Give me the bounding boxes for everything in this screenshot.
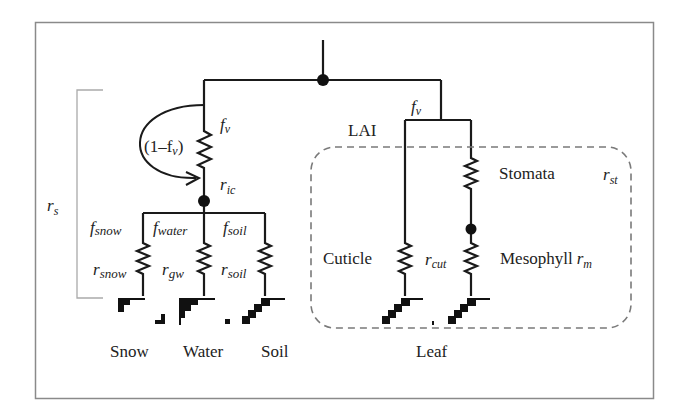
snow-surface-icon (118, 298, 145, 319)
surface-icons (118, 298, 490, 325)
leaf-surface-label: Leaf (416, 342, 447, 361)
cuticle-resistance-label: rcut (425, 250, 447, 271)
snow-fraction-label: fsnow (90, 218, 122, 238)
snow-surface-label: Snow (110, 342, 149, 361)
water-fraction-label: fwater (153, 218, 188, 238)
soil-resistance-label: rsoil (221, 260, 247, 281)
water-dot-icon (225, 319, 230, 324)
lai-label: LAI (348, 121, 377, 140)
stomata-label: Stomata (499, 164, 555, 183)
surface-resistance-label: rs (47, 196, 59, 218)
leaf-cuticle-surface-icon (382, 298, 423, 324)
water-surface-icon (179, 298, 215, 325)
snow-resistance-label: rsnow (93, 260, 127, 281)
canopy-resistance-label: ric (220, 175, 236, 197)
leaf-stomata-surface-icon (448, 298, 490, 324)
water-resistance-label: rgw (162, 260, 184, 281)
junction-node-ground (198, 195, 210, 207)
soil-surface-icon (242, 298, 285, 324)
bypass-fraction-label: (1–fv) (144, 137, 183, 158)
stomata-resistance-label: rst (603, 165, 618, 187)
junction-node-mesophyll (466, 224, 477, 235)
canopy-fraction-label: fv (220, 115, 231, 136)
leaf-dot-icon (432, 321, 434, 325)
leaf-fraction-label: fv (411, 97, 422, 118)
soil-fraction-label: fsoil (223, 218, 247, 238)
soil-surface-label: Soil (261, 342, 289, 361)
junction-node-top (317, 74, 329, 86)
mesophyll-label: Mesophyllrm (500, 249, 592, 271)
resistance-diagram: fv (1–fv) ric rs fsnow fwater fsoil rsno… (0, 0, 682, 414)
cuticle-label: Cuticle (323, 249, 372, 268)
water-surface-label: Water (183, 342, 223, 361)
